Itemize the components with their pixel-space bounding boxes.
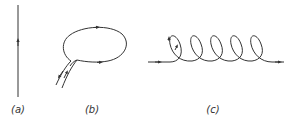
panel-b-loop: [56, 27, 126, 88]
panel-a-label: (a): [11, 104, 25, 115]
panel-b-label: (b): [85, 104, 99, 115]
panel-c-helix: [148, 36, 284, 62]
panel-c-label: (c): [206, 104, 219, 115]
diagram-canvas: [0, 0, 300, 125]
